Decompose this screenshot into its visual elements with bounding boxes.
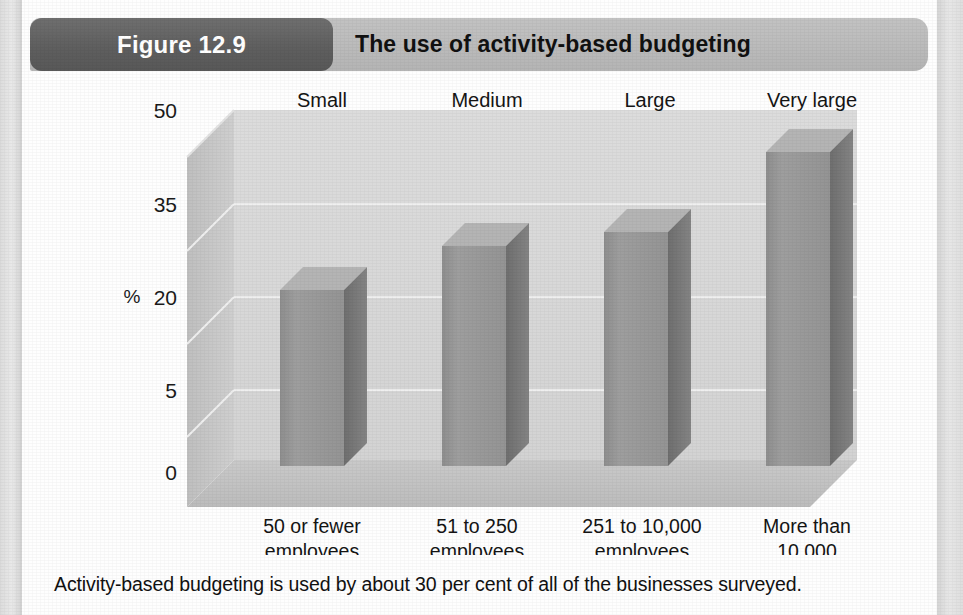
- series-label-very-large: Very large: [767, 89, 857, 111]
- ytick-label-20: 20: [154, 286, 177, 309]
- y-axis-unit-label: %: [124, 286, 141, 307]
- plot-floor: [187, 460, 857, 507]
- category-label-2-line-2: employees: [430, 540, 525, 555]
- figure-header-bar: Figure 12.9 The use of activity-based bu…: [30, 18, 928, 71]
- ytick-label-35: 35: [154, 193, 177, 216]
- figure-card: Figure 12.9 The use of activity-based bu…: [22, 0, 937, 615]
- bar-medium-front: [442, 246, 506, 466]
- bar-large-side: [668, 209, 691, 466]
- bar-small-side: [344, 267, 367, 466]
- category-label-4: More than 10,000 employees: [760, 515, 855, 555]
- bar-medium: [442, 223, 529, 466]
- page-background: Figure 12.9 The use of activity-based bu…: [0, 0, 963, 615]
- plot-side-wall: [187, 110, 234, 507]
- series-label-small: Small: [297, 89, 347, 111]
- scan-margin-right: [937, 0, 963, 615]
- bar-large: [604, 209, 691, 466]
- bar-large-front: [604, 232, 668, 466]
- chart-area: 50 35 20 5 0 % Small Medium Large Very l…: [22, 75, 937, 555]
- category-label-1-line-2: employees: [265, 540, 360, 555]
- category-label-1-line-1: 50 or fewer: [263, 515, 361, 537]
- ytick-label-5: 5: [165, 379, 177, 402]
- category-label-3: 251 to 10,000 employees: [582, 515, 701, 555]
- bar-chart-3d: 50 35 20 5 0 % Small Medium Large Very l…: [22, 75, 937, 555]
- category-label-4-line-2: 10,000: [777, 540, 837, 555]
- bar-very-large-front: [766, 152, 830, 466]
- bar-very-large-side: [830, 129, 853, 466]
- series-label-medium: Medium: [451, 89, 522, 111]
- bar-medium-side: [506, 223, 529, 466]
- category-label-3-line-2: employees: [595, 540, 690, 555]
- scan-margin-left: [0, 0, 22, 615]
- category-label-3-line-1: 251 to 10,000: [582, 515, 701, 537]
- category-label-2: 51 to 250 employees: [430, 515, 525, 555]
- figure-caption: Activity-based budgeting is used by abou…: [54, 573, 917, 596]
- category-label-2-line-1: 51 to 250: [436, 515, 517, 537]
- series-label-large: Large: [624, 89, 675, 111]
- ytick-label-0: 0: [165, 461, 177, 484]
- bar-small-front: [280, 290, 344, 466]
- bar-small: [280, 267, 367, 466]
- figure-number-label: Figure 12.9: [117, 31, 246, 59]
- figure-title: The use of activity-based budgeting: [355, 18, 751, 71]
- figure-number-badge: Figure 12.9: [30, 18, 333, 71]
- bar-very-large: [766, 129, 853, 466]
- ytick-label-50: 50: [154, 99, 177, 122]
- category-label-1: 50 or fewer employees: [263, 515, 361, 555]
- category-label-4-line-1: More than: [763, 515, 851, 537]
